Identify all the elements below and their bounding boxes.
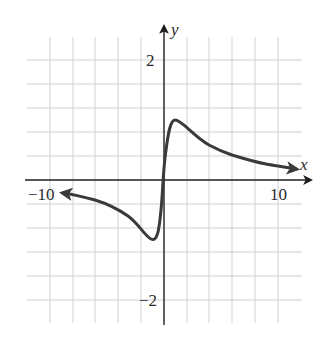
y-tick-2: 2 [146, 51, 155, 70]
x-tick-neg-10: −10 [28, 185, 55, 204]
x-tick-10: 10 [270, 185, 287, 204]
function-graph: y x 2 −2 −10 10 [0, 0, 327, 341]
y-tick-neg-2: −2 [139, 291, 157, 310]
graph-canvas: y x 2 −2 −10 10 [0, 0, 327, 341]
y-axis-label: y [169, 20, 179, 39]
x-axis-label: x [299, 155, 308, 174]
